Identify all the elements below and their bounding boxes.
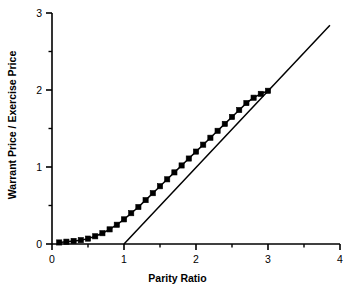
- x-tick-label: 1: [121, 253, 127, 265]
- data-point-marker: [157, 184, 162, 189]
- x-tick-label: 3: [265, 253, 271, 265]
- data-point-marker: [222, 121, 227, 126]
- data-point-marker: [229, 114, 234, 119]
- data-point-marker: [258, 91, 263, 96]
- data-point-marker: [114, 222, 119, 227]
- data-point-marker: [85, 236, 90, 241]
- data-point-marker: [165, 177, 170, 182]
- data-point-marker: [129, 211, 134, 216]
- x-tick-label: 4: [337, 253, 343, 265]
- y-tick-label: 2: [36, 84, 42, 96]
- data-point-marker: [78, 238, 83, 243]
- data-point-marker: [150, 191, 155, 196]
- data-point-marker: [64, 239, 69, 244]
- data-point-marker: [57, 240, 62, 245]
- plot-area: 012340123: [0, 0, 355, 296]
- data-point-marker: [208, 135, 213, 140]
- data-point-marker: [107, 227, 112, 232]
- chart-figure: 012340123 Warrant Price / Exercise Price…: [0, 0, 355, 296]
- axis-layer: [46, 13, 340, 250]
- x-axis-title-label: Parity Ratio: [0, 272, 355, 284]
- data-point-marker: [121, 217, 126, 222]
- data-point-marker: [172, 170, 177, 175]
- tick-label-layer: 012340123: [36, 7, 343, 265]
- data-point-marker: [143, 198, 148, 203]
- data-point-marker: [237, 107, 242, 112]
- data-point-marker: [136, 204, 141, 209]
- x-tick-label: 2: [193, 253, 199, 265]
- y-tick-label: 3: [36, 7, 42, 19]
- x-tick-label: 0: [49, 253, 55, 265]
- data-point-marker: [100, 231, 105, 236]
- data-point-marker: [179, 163, 184, 168]
- data-point-marker: [93, 234, 98, 239]
- series-line-1: [124, 25, 330, 244]
- series-layer: [57, 25, 330, 245]
- data-point-marker: [215, 128, 220, 133]
- data-point-marker: [193, 149, 198, 154]
- data-point-marker: [251, 95, 256, 100]
- y-tick-label: 1: [36, 161, 42, 173]
- y-axis-title-label: Warrant Price / Exercise Price: [6, 51, 18, 199]
- data-point-marker: [186, 156, 191, 161]
- y-axis-title: Warrant Price / Exercise Price: [0, 0, 24, 250]
- data-point-marker: [71, 238, 76, 243]
- data-point-marker: [201, 142, 206, 147]
- data-point-marker: [244, 100, 249, 105]
- series-line-0: [59, 91, 268, 243]
- y-tick-label: 0: [36, 238, 42, 250]
